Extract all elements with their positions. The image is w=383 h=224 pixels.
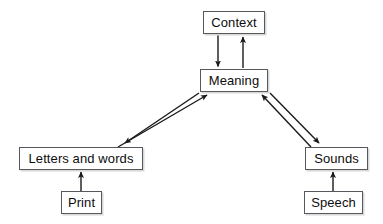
- node-speech[interactable]: Speech: [304, 191, 363, 214]
- arrow-sounds-to-meaning: [262, 95, 311, 147]
- arrow-letters-to-meaning: [118, 95, 207, 147]
- node-meaning-label: Meaning: [205, 74, 264, 87]
- node-meaning[interactable]: Meaning: [200, 69, 268, 92]
- node-print-label: Print: [64, 196, 99, 209]
- arrow-meaning-to-letters: [125, 93, 199, 143]
- node-print[interactable]: Print: [61, 191, 102, 214]
- node-context-label: Context: [207, 16, 261, 29]
- node-sounds-label: Sounds: [310, 152, 363, 165]
- node-letters-and-words-label: Letters and words: [24, 152, 137, 165]
- arrow-meaning-to-sounds: [270, 93, 319, 143]
- node-sounds[interactable]: Sounds: [305, 147, 368, 170]
- node-letters-and-words[interactable]: Letters and words: [19, 147, 143, 170]
- diagram-canvas: Context Meaning Letters and words Sounds…: [0, 0, 383, 224]
- node-context[interactable]: Context: [203, 11, 265, 34]
- node-speech-label: Speech: [307, 196, 360, 209]
